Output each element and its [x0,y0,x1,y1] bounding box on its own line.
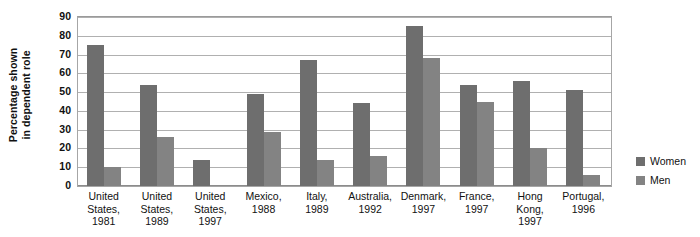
x-tick-label-line-2: 1989 [290,203,343,216]
x-tick-label: UnitedStates,1997 [184,190,237,228]
bar-group [238,17,291,186]
x-tick-label-line-2: 1997 [397,203,450,216]
y-tick-label-40: 40 [40,104,71,116]
legend-swatch-icon [636,176,645,185]
bar-women [406,26,423,186]
bar-men [530,148,547,186]
y-tick-label-50: 50 [40,85,71,97]
x-tick-label-line-1: Mexico, [237,190,290,203]
x-tick-label-line-1: Portugal, [557,190,610,203]
x-tick-label: HongKong,1997 [503,190,556,228]
y-tick-label-60: 60 [40,66,71,78]
y-tick-label-20: 20 [40,141,71,153]
bar-men [423,58,440,186]
x-tick-label-line-3: 1997 [184,215,237,228]
x-tick-label-line-2: States, [184,203,237,216]
y-tick-label-70: 70 [40,48,71,60]
x-tick-label-line-2: States, [77,203,130,216]
bar-women [247,94,264,186]
y-axis-title: Percentage shown in dependent role [0,0,40,190]
x-tick-label: Denmark,1997 [397,190,450,215]
y-tick-label-10: 10 [40,160,71,172]
bar-women [193,160,210,186]
x-tick-label-line-2: 1997 [450,203,503,216]
x-tick-label-line-1: United [77,190,130,203]
bar-chart-figure: Percentage shown in dependent role 90807… [0,0,700,237]
x-tick-label-line-1: United [130,190,183,203]
x-tick-label-line-2: States, [130,203,183,216]
x-axis-tick-labels: UnitedStates,1981UnitedStates,1989United… [77,190,610,237]
y-tick-label-30: 30 [40,123,71,135]
x-tick-label-line-1: France, [450,190,503,203]
legend-label: Men [650,174,670,186]
x-tick-label-line-3: 1997 [503,215,556,228]
x-tick-label: Mexico,1988 [237,190,290,215]
bar-men [157,137,174,186]
legend-label: Women [650,155,686,167]
bar-men [370,156,387,186]
y-axis-title-line-1: Percentage shown [7,48,20,142]
y-tick-label-0: 0 [40,179,71,191]
bar-women [566,90,583,186]
bar-women [87,45,104,186]
legend-swatch-icon [636,157,645,166]
x-tick-label-line-2: Kong, [503,203,556,216]
x-tick-label: Italy,1989 [290,190,343,215]
y-tick-label-90: 90 [40,10,71,22]
x-tick-label: Australia,1992 [344,190,397,215]
bar-group [345,17,398,186]
legend-item-men[interactable]: Men [636,172,698,188]
bar-group [185,17,238,186]
x-tick-label: UnitedStates,1989 [130,190,183,228]
bar-group [504,17,557,186]
bar-men [264,132,281,186]
x-tick-label-line-1: Australia, [344,190,397,203]
bar-men [477,102,494,187]
bar-women [513,81,530,186]
bar-group [291,17,344,186]
bar-group [131,17,184,186]
bars-layer [78,17,611,186]
legend-item-women[interactable]: Women [636,153,698,169]
x-tick-label-line-3: 1981 [77,215,130,228]
bar-group [78,17,131,186]
x-tick-label-line-3: 1989 [130,215,183,228]
y-axis-tick-labels: 9080706050403020100 [40,10,71,191]
y-axis-title-line-2: in dependent role [20,48,33,142]
x-tick-label-line-2: 1996 [557,203,610,216]
bar-women [460,85,477,186]
x-tick-label-line-1: Hong [503,190,556,203]
bar-men [583,175,600,186]
x-tick-label-line-1: Denmark, [397,190,450,203]
bar-men [317,160,334,186]
x-tick-label: France,1997 [450,190,503,215]
bar-group [398,17,451,186]
y-tick-label-80: 80 [40,29,71,41]
bar-women [140,85,157,186]
x-tick-label: Portugal,1996 [557,190,610,215]
x-tick-label-line-2: 1992 [344,203,397,216]
x-tick-label-line-2: 1988 [237,203,290,216]
x-tick-label-line-1: Italy, [290,190,343,203]
bar-group [451,17,504,186]
bar-women [300,60,317,186]
bar-men [104,167,121,186]
plot-area [77,16,612,187]
chart-legend: WomenMen [636,153,698,191]
bar-group [558,17,611,186]
x-tick-label-line-1: United [184,190,237,203]
x-tick-label: UnitedStates,1981 [77,190,130,228]
bar-women [353,103,370,186]
